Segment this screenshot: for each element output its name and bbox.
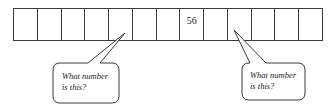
- callout-right-line2: is this?: [250, 81, 296, 92]
- callout-left-text: What number is this?: [62, 71, 108, 93]
- callout-right-line1: What number: [250, 70, 296, 81]
- callout-right-text: What number is this?: [250, 70, 296, 92]
- callout-left-line1: What number: [62, 71, 108, 82]
- callout-left-line2: is this?: [62, 82, 108, 93]
